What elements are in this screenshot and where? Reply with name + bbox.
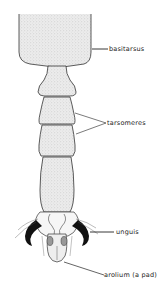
pretarsus <box>36 212 79 236</box>
tarsomere-2 <box>39 97 75 124</box>
tarsomere-4 <box>40 157 74 212</box>
label-tarsomeres: tarsomeres <box>107 120 146 127</box>
label-unguis: unguis <box>116 229 139 236</box>
label-basitarsus: basitarsus <box>109 46 144 53</box>
arolium-pad <box>47 234 67 262</box>
label-arolium: arolium (a pad) <box>104 272 157 279</box>
tarsomere-1 <box>38 66 76 96</box>
basitarsus-segment <box>19 14 91 68</box>
tarsomere-3 <box>39 125 76 156</box>
